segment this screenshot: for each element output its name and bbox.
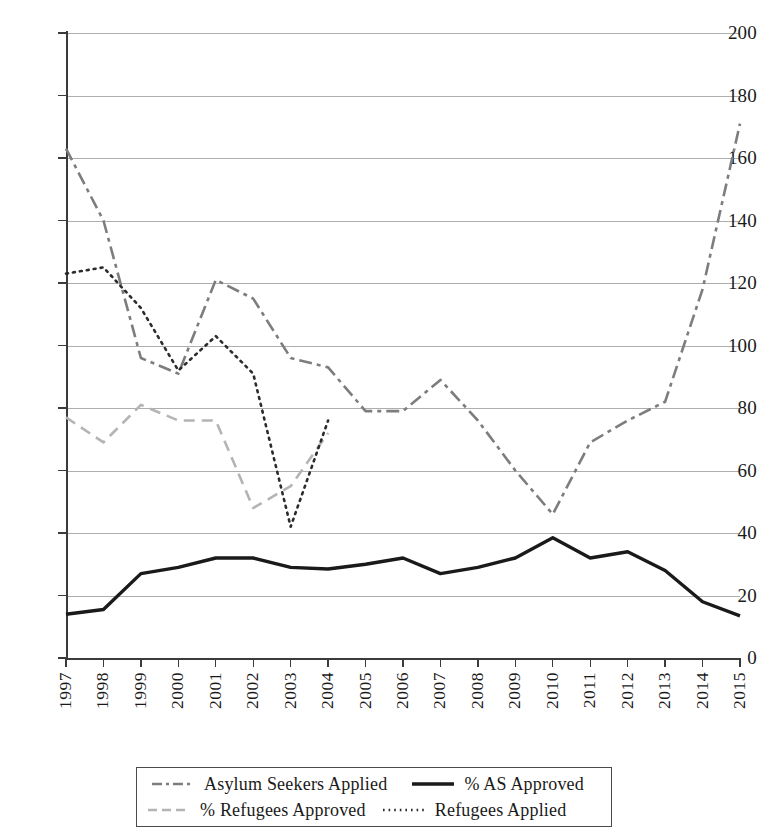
legend-swatch-dotted-icon — [382, 804, 426, 816]
legend-entry-refugees-applied: Refugees Applied — [382, 801, 567, 819]
legend-row-bottom: % Refugees Approved Refugees Applied — [147, 797, 601, 823]
legend-label: % AS Approved — [464, 775, 584, 793]
legend-row-top: Asylum Seekers Applied % AS Approved — [147, 771, 601, 797]
series-line-refugees-approved — [66, 405, 328, 508]
legend-label: Asylum Seekers Applied — [204, 775, 387, 793]
series-line-asylum-seekers-applied — [66, 124, 740, 515]
chart-legend: Asylum Seekers Applied % AS Approved % R… — [136, 767, 612, 827]
series-line-as-approved — [66, 538, 740, 616]
series-layer — [0, 0, 757, 839]
legend-swatch-solid-icon — [411, 778, 455, 790]
legend-entry-as-approved: % AS Approved — [411, 775, 584, 793]
legend-label: % Refugees Approved — [200, 801, 366, 819]
legend-entry-refugees-approved: % Refugees Approved — [147, 801, 366, 819]
legend-entry-asylum-seekers-applied: Asylum Seekers Applied — [151, 775, 387, 793]
line-chart: 200180160140120100806040200 199719981999… — [0, 0, 757, 839]
legend-label: Refugees Applied — [435, 801, 567, 819]
legend-swatch-dashed-icon — [147, 804, 191, 816]
legend-swatch-dash-dot-icon — [151, 778, 195, 790]
